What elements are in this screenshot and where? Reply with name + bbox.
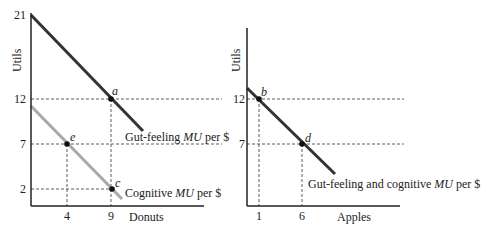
combined-legend: Gut-feeling and cognitive MU per $ xyxy=(308,178,480,190)
left-ytick-7: 7 xyxy=(20,138,26,150)
label-b: b xyxy=(261,86,267,98)
left-chart xyxy=(31,13,222,206)
point-e xyxy=(64,141,70,147)
gut-feeling-legend: Gut-feeling MU per $ xyxy=(125,131,229,143)
left-y-axis-label: Utils xyxy=(10,49,25,72)
charts-canvas xyxy=(0,0,494,237)
label-d: d xyxy=(305,132,311,144)
left-x-axis-label: Donuts xyxy=(129,211,164,223)
right-xtick-1: 1 xyxy=(256,210,262,222)
label-e: e xyxy=(70,131,75,143)
right-ytick-12: 12 xyxy=(233,93,245,105)
label-a: a xyxy=(112,85,118,97)
left-xtick-4: 4 xyxy=(64,210,70,222)
right-y-axis-label: Utils xyxy=(229,49,244,72)
cognitive-mu-line xyxy=(31,106,122,199)
point-d xyxy=(299,141,305,147)
right-x-axis-label: Apples xyxy=(337,211,371,223)
left-xtick-9: 9 xyxy=(108,210,114,222)
right-xtick-6: 6 xyxy=(299,210,305,222)
right-ytick-7: 7 xyxy=(239,138,245,150)
label-c: c xyxy=(115,177,120,189)
left-ytick-2: 2 xyxy=(20,183,26,195)
cognitive-legend: Cognitive MU per $ xyxy=(125,187,221,199)
left-ytick-21: 21 xyxy=(14,9,26,21)
left-ytick-12: 12 xyxy=(14,93,26,105)
gut-feeling-mu-line xyxy=(31,15,143,131)
point-c xyxy=(109,186,115,192)
